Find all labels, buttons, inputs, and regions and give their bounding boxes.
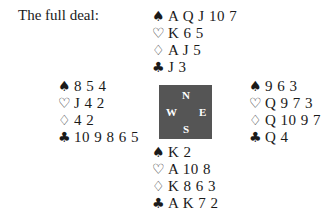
west-diamonds-cards: 4 2 (74, 112, 94, 128)
west-spades: ♠8 5 4 (58, 78, 139, 95)
east-hearts: ♡Q 9 7 3 (249, 95, 321, 112)
deal-title: The full deal: (18, 7, 99, 24)
spade-icon: ♠ (58, 78, 74, 95)
compass-box: N W E S (159, 85, 212, 139)
spade-icon: ♠ (249, 78, 265, 95)
north-hand: ♠A Q J 10 7 ♡K 6 5 ♢A J 5 ♣J 3 (152, 8, 237, 76)
compass-west-label: W (166, 107, 177, 118)
heart-icon: ♡ (249, 95, 265, 112)
north-spades: ♠A Q J 10 7 (152, 8, 237, 25)
south-hearts: ♡A 10 8 (152, 161, 219, 178)
south-diamonds-cards: K 8 6 3 (168, 178, 216, 194)
south-spades: ♠K 2 (152, 144, 219, 161)
diamond-icon: ♢ (152, 42, 168, 59)
east-clubs: ♣Q 4 (249, 129, 321, 146)
east-diamonds-cards: Q 10 9 7 (265, 112, 321, 128)
east-spades: ♠9 6 3 (249, 78, 321, 95)
south-hand: ♠K 2 ♡A 10 8 ♢K 8 6 3 ♣A K 7 2 (152, 144, 219, 212)
north-spades-cards: A Q J 10 7 (168, 8, 237, 24)
heart-icon: ♡ (152, 161, 168, 178)
south-spades-cards: K 2 (168, 144, 192, 160)
club-icon: ♣ (152, 59, 168, 76)
spade-icon: ♠ (152, 144, 168, 161)
club-icon: ♣ (58, 129, 74, 146)
compass-south-label: S (183, 124, 189, 135)
spade-icon: ♠ (152, 8, 168, 25)
heart-icon: ♡ (58, 95, 74, 112)
north-hearts: ♡K 6 5 (152, 25, 237, 42)
south-diamonds: ♢K 8 6 3 (152, 178, 219, 195)
north-clubs-cards: J 3 (168, 59, 187, 75)
north-diamonds-cards: A J 5 (168, 42, 201, 58)
west-hand: ♠8 5 4 ♡J 4 2 ♢4 2 ♣10 9 8 6 5 (58, 78, 139, 146)
south-hearts-cards: A 10 8 (168, 161, 211, 177)
west-diamonds: ♢4 2 (58, 112, 139, 129)
south-clubs-cards: A K 7 2 (168, 195, 219, 211)
club-icon: ♣ (249, 129, 265, 146)
west-hearts-cards: J 4 2 (74, 95, 105, 111)
club-icon: ♣ (152, 195, 168, 212)
diamond-icon: ♢ (152, 178, 168, 195)
north-clubs: ♣J 3 (152, 59, 237, 76)
diamond-icon: ♢ (249, 112, 265, 129)
east-spades-cards: 9 6 3 (265, 78, 298, 94)
west-spades-cards: 8 5 4 (74, 78, 107, 94)
west-hearts: ♡J 4 2 (58, 95, 139, 112)
west-clubs-cards: 10 9 8 6 5 (74, 129, 139, 145)
east-diamonds: ♢Q 10 9 7 (249, 112, 321, 129)
compass-east-label: E (199, 107, 206, 118)
heart-icon: ♡ (152, 25, 168, 42)
south-clubs: ♣A K 7 2 (152, 195, 219, 212)
compass-north-label: N (182, 90, 190, 101)
diamond-icon: ♢ (58, 112, 74, 129)
east-hearts-cards: Q 9 7 3 (265, 95, 313, 111)
north-hearts-cards: K 6 5 (168, 25, 204, 41)
east-clubs-cards: Q 4 (265, 129, 289, 145)
west-clubs: ♣10 9 8 6 5 (58, 129, 139, 146)
east-hand: ♠9 6 3 ♡Q 9 7 3 ♢Q 10 9 7 ♣Q 4 (249, 78, 321, 146)
north-diamonds: ♢A J 5 (152, 42, 237, 59)
